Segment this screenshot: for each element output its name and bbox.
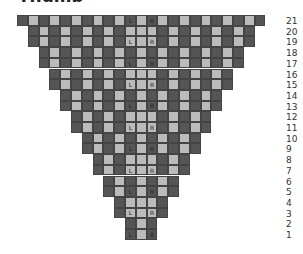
- stitch-cell: [103, 133, 114, 144]
- stitch-cell: [179, 101, 190, 112]
- stitch-cell: [255, 15, 266, 26]
- stitch-cell: [93, 133, 104, 144]
- stitch-cell: [179, 154, 190, 165]
- stitch-cell: [82, 133, 93, 144]
- stitch-cell: [168, 165, 179, 176]
- stitch-cell: [82, 69, 93, 80]
- stitch-cell: [168, 90, 179, 101]
- stitch-cell: [93, 165, 104, 176]
- row-number: 11: [286, 123, 297, 133]
- stitch-cell: L: [125, 165, 136, 176]
- stitch-cell: [49, 15, 60, 26]
- stitch-cell: [136, 154, 147, 165]
- stitch-cell: [93, 79, 104, 90]
- stitch-cell: [190, 69, 201, 80]
- stitch-cell: [93, 36, 104, 47]
- stitch-cell: [157, 186, 168, 197]
- stitch-cell: [157, 176, 168, 187]
- stitch-cell: [147, 154, 158, 165]
- stitch-cell: [60, 58, 71, 69]
- stitch-cell: [168, 154, 179, 165]
- stitch-cell: [222, 69, 233, 80]
- stitch-cell: [147, 26, 158, 37]
- stitch-cell: [168, 79, 179, 90]
- stitch-cell: [222, 47, 233, 58]
- stitch-cell: [179, 111, 190, 122]
- stitch-cell: [190, 47, 201, 58]
- stitch-cell: R: [147, 122, 158, 133]
- stitch-cell: [125, 218, 136, 229]
- stitch-cell: [136, 111, 147, 122]
- stitch-cell: [211, 69, 222, 80]
- stitch-cell: [201, 111, 212, 122]
- stitch-cell: [211, 26, 222, 37]
- stitch-cell: [28, 15, 39, 26]
- stitch-cell: [114, 58, 125, 69]
- stitch-cell: [93, 58, 104, 69]
- stitch-cell: [82, 111, 93, 122]
- stitch-cell: [114, 133, 125, 144]
- stitch-cell: R: [147, 58, 158, 69]
- stitch-cell: [244, 15, 255, 26]
- stitch-cell: [168, 101, 179, 112]
- stitch-cell: R: [147, 79, 158, 90]
- stitch-cell: L: [125, 143, 136, 154]
- stitch-cell: [82, 47, 93, 58]
- stitch-cell: [222, 79, 233, 90]
- stitch-cell: [136, 79, 147, 90]
- stitch-cell: [222, 58, 233, 69]
- stitch-cell: [125, 47, 136, 58]
- stitch-cell: [114, 154, 125, 165]
- stitch-cell: [157, 208, 168, 219]
- stitch-cell: [201, 26, 212, 37]
- row-number: 4: [286, 198, 292, 208]
- stitch-cell: [179, 15, 190, 26]
- stitch-cell: [71, 111, 82, 122]
- stitch-cell: [114, 122, 125, 133]
- row-number: 20: [286, 27, 297, 37]
- stitch-cell: [39, 15, 50, 26]
- stitch-cell: [39, 36, 50, 47]
- stitch-cell: [222, 36, 233, 47]
- stitch-cell: [201, 122, 212, 133]
- stitch-cell: [244, 36, 255, 47]
- chart-title: Thumb: [18, 0, 84, 4]
- row-number: 17: [286, 59, 297, 69]
- stitch-cell: [157, 36, 168, 47]
- stitch-cell: [71, 90, 82, 101]
- stitch-cell: [168, 26, 179, 37]
- stitch-cell: [190, 133, 201, 144]
- stitch-cell: [201, 47, 212, 58]
- stitch-cell: [103, 79, 114, 90]
- stitch-cell: [147, 47, 158, 58]
- stitch-cell: [114, 101, 125, 112]
- stitch-cell: [157, 143, 168, 154]
- stitch-cell: [211, 47, 222, 58]
- stitch-cell: L: [125, 186, 136, 197]
- stitch-cell: R: [147, 101, 158, 112]
- stitch-cell: [168, 176, 179, 187]
- stitch-cell: [125, 154, 136, 165]
- row-number: 19: [286, 37, 297, 47]
- stitch-cell: [114, 176, 125, 187]
- stitch-cell: [114, 197, 125, 208]
- stitch-cell: [136, 229, 147, 240]
- stitch-cell: [103, 154, 114, 165]
- stitch-cell: [136, 26, 147, 37]
- row-number: 9: [286, 144, 292, 154]
- stitch-cell: [125, 111, 136, 122]
- stitch-cell: [201, 101, 212, 112]
- stitch-cell: [136, 143, 147, 154]
- stitch-cell: [244, 26, 255, 37]
- stitch-cell: [114, 143, 125, 154]
- stitch-cell: [201, 15, 212, 26]
- stitch-cell: [114, 186, 125, 197]
- stitch-cell: [168, 133, 179, 144]
- stitch-cell: [179, 58, 190, 69]
- stitch-cell: [28, 26, 39, 37]
- stitch-cell: [60, 69, 71, 80]
- stitch-cell: [190, 58, 201, 69]
- stitch-cell: [114, 47, 125, 58]
- stitch-cell: [82, 15, 93, 26]
- stitch-cell: [222, 26, 233, 37]
